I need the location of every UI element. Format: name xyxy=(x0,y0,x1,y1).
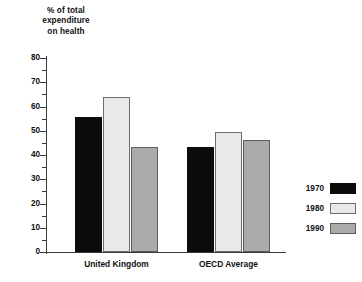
legend-label: 1970 xyxy=(300,184,324,193)
y-tick-label: 30 xyxy=(2,174,40,183)
y-tick-label: 80 xyxy=(2,53,40,62)
bar-1970 xyxy=(75,117,102,252)
y-tick-major xyxy=(40,252,47,253)
legend-item-1970: 1970 xyxy=(300,182,356,195)
bar-1980 xyxy=(215,132,242,252)
category-label: United Kingdom xyxy=(67,259,167,269)
legend-label: 1980 xyxy=(300,204,324,213)
bar-1970 xyxy=(187,147,214,252)
y-tick-major xyxy=(40,155,47,156)
legend-swatch xyxy=(330,183,356,194)
y-tick-label: 70 xyxy=(2,77,40,86)
y-axis-title-line-2: expenditure xyxy=(18,16,114,26)
y-tick-label: 40 xyxy=(2,150,40,159)
legend-swatch xyxy=(330,203,356,214)
legend-item-1990: 1990 xyxy=(300,222,356,235)
legend-label: 1990 xyxy=(300,224,324,233)
y-tick-major xyxy=(40,131,47,132)
y-tick-major xyxy=(40,107,47,108)
y-axis-title-line-3: on health xyxy=(18,27,114,37)
y-tick-major xyxy=(40,228,47,229)
y-tick-label: 50 xyxy=(2,126,40,135)
bar-1990 xyxy=(131,147,158,252)
legend: 197019801990 xyxy=(300,182,356,242)
y-tick-label: 10 xyxy=(2,223,40,232)
y-tick-major xyxy=(40,58,47,59)
y-tick-major xyxy=(40,179,47,180)
legend-swatch xyxy=(330,223,356,234)
y-tick-major xyxy=(40,204,47,205)
y-axis-title-line-1: % of total xyxy=(18,6,114,16)
plot-area xyxy=(47,58,285,252)
y-tick-label: 60 xyxy=(2,102,40,111)
y-tick-major xyxy=(40,82,47,83)
legend-item-1980: 1980 xyxy=(300,202,356,215)
bar-group xyxy=(75,97,158,252)
category-label: OECD Average xyxy=(179,259,279,269)
bar-chart: % of total expenditure on health 0102030… xyxy=(0,0,362,282)
bar-1990 xyxy=(243,140,270,252)
y-tick-label: 20 xyxy=(2,199,40,208)
y-tick-label: 0 xyxy=(2,247,40,256)
bar-group xyxy=(187,132,270,252)
x-axis-line xyxy=(46,252,286,253)
y-axis-title: % of total expenditure on health xyxy=(18,6,114,37)
bar-1980 xyxy=(103,97,130,252)
